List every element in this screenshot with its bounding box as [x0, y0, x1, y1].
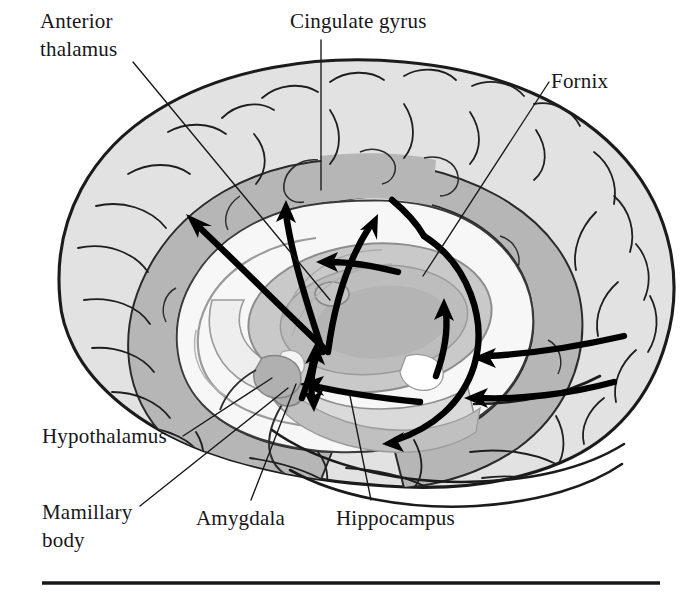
label-anterior-thalamus-line2: thalamus	[40, 37, 117, 61]
brain-diagram-svg: Anterior thalamus Cingulate gyrus Fornix…	[0, 0, 699, 597]
label-cingulate-gyrus: Cingulate gyrus	[290, 9, 427, 33]
label-mamillary-body-line1: Mamillary	[42, 500, 133, 524]
label-anterior-thalamus-line1: Anterior	[40, 9, 113, 33]
limbic-system-figure: Anterior thalamus Cingulate gyrus Fornix…	[0, 0, 699, 597]
label-hypothalamus: Hypothalamus	[42, 424, 167, 448]
label-fornix: Fornix	[551, 69, 609, 93]
amygdala-structure	[254, 356, 301, 398]
label-mamillary-body-line2: body	[42, 528, 85, 552]
label-amygdala: Amygdala	[196, 506, 286, 530]
label-hippocampus: Hippocampus	[336, 506, 455, 530]
